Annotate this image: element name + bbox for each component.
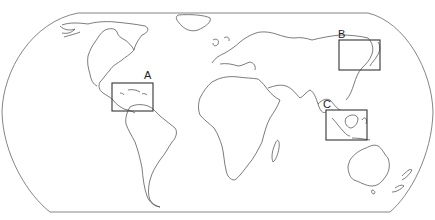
region-a-label: A xyxy=(144,69,152,81)
region-b-label: B xyxy=(338,28,345,40)
map-frame xyxy=(2,13,433,212)
region-c-label: C xyxy=(323,98,331,110)
world-map: A B C xyxy=(0,0,435,220)
